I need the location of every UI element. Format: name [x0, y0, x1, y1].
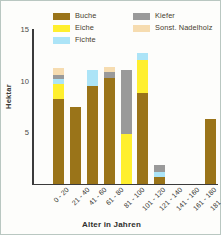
bar-stack[interactable]	[205, 119, 216, 184]
bar-segment[interactable]	[53, 84, 64, 100]
legend-label: Kiefer	[155, 10, 175, 22]
bar-segment[interactable]	[154, 177, 165, 184]
bar-segment[interactable]	[137, 53, 148, 60]
bar-segment[interactable]	[121, 134, 132, 184]
bar-segment[interactable]	[121, 70, 132, 134]
x-axis-title: Alter in Jahren	[1, 220, 221, 229]
bar-stack[interactable]	[104, 67, 115, 184]
bar-segment[interactable]	[137, 60, 148, 93]
legend-swatch-icon	[53, 13, 70, 20]
x-axis-tick-label: 0 - 20	[53, 186, 71, 204]
bar-segment[interactable]	[104, 78, 115, 184]
bar-segment[interactable]	[53, 99, 64, 184]
bar-stack[interactable]	[137, 53, 148, 184]
bar-segment[interactable]	[87, 86, 98, 184]
x-axis-tick-label: 21 - 40	[71, 186, 91, 206]
y-axis-tick-label: 5	[25, 128, 29, 137]
legend-item[interactable]: Kiefer	[133, 10, 212, 22]
legend-item[interactable]: Buche	[53, 10, 96, 22]
plot-area	[32, 29, 218, 184]
legend-swatch-icon	[133, 13, 150, 20]
x-axis-tick-label: 41 - 60	[88, 186, 108, 206]
bar-stack[interactable]	[154, 165, 165, 184]
chart-figure: BucheEicheFichteKieferSonst. Nadelholz 5…	[0, 0, 221, 235]
bar-segment[interactable]	[70, 107, 81, 185]
y-axis-title: Hektar	[4, 84, 13, 109]
bar-segment[interactable]	[205, 119, 216, 184]
bar-stack[interactable]	[70, 107, 81, 185]
x-axis-tick-labels: 0 - 2021 - 4041 - 6061 - 8081 - 100101 -…	[32, 186, 218, 218]
y-axis-tick-label: 15	[21, 25, 29, 34]
bar-stack[interactable]	[87, 70, 98, 184]
bar-stack[interactable]	[53, 68, 64, 184]
bar-stack[interactable]	[121, 70, 132, 184]
y-axis-tick-label: 10	[21, 76, 29, 85]
bar-segment[interactable]	[137, 93, 148, 184]
legend-label: Buche	[75, 10, 96, 22]
bar-segment[interactable]	[87, 70, 98, 86]
